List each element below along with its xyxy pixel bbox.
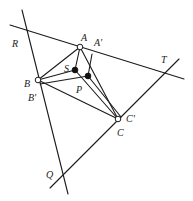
point-label: S xyxy=(64,63,69,74)
point-label: T xyxy=(161,54,168,65)
point-label: C xyxy=(117,127,124,138)
point-label: B' xyxy=(28,92,37,103)
segment-AB xyxy=(38,47,80,80)
point-label: A xyxy=(80,32,88,43)
segment-PCprime xyxy=(88,76,121,117)
interior-point-P xyxy=(85,73,91,79)
point-label: C' xyxy=(126,113,136,124)
line-QT xyxy=(50,59,179,188)
geometry-diagram: RAA'TSBPB'C'CQ xyxy=(0,0,193,201)
point-label: B xyxy=(24,78,30,89)
labels-layer: RAA'TSBPB'C'CQ xyxy=(11,32,168,180)
point-label: P xyxy=(75,84,82,95)
line-RT xyxy=(10,25,184,79)
vertex-point-A xyxy=(77,44,83,50)
point-label: Q xyxy=(46,169,54,180)
interior-point-S xyxy=(72,67,78,73)
point-label: A' xyxy=(93,37,103,48)
vertex-point-B xyxy=(35,77,41,83)
vertex-point-C xyxy=(115,116,121,122)
point-label: R xyxy=(11,38,18,49)
segment-AprimeP xyxy=(88,54,92,76)
